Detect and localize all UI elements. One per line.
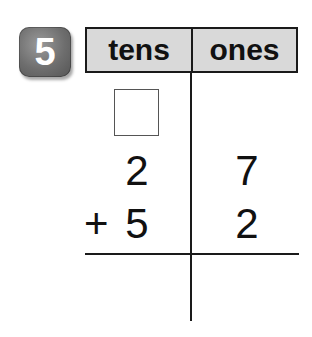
header-tens: tens [87, 29, 193, 71]
addend1-tens: 2 [122, 150, 152, 192]
problem-number-badge: 5 [19, 27, 71, 77]
column-divider [190, 73, 192, 321]
addend2-tens: 5 [122, 203, 152, 245]
plus-sign: + [84, 203, 109, 245]
sum-line [85, 253, 299, 255]
header-ones: ones [193, 29, 296, 71]
regroup-input-box[interactable] [114, 89, 159, 136]
addend2-ones: 2 [232, 203, 262, 245]
problem-number: 5 [34, 31, 55, 73]
addend1-ones: 7 [232, 150, 262, 192]
place-value-header: tens ones [85, 27, 298, 73]
